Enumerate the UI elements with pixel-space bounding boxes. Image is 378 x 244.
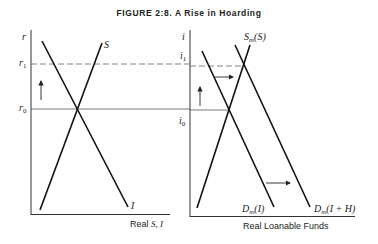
i1-label: i1 (180, 50, 187, 63)
left-x-axis-label: Real S, I (130, 219, 164, 229)
right-x-axis-label: Real Loanable Funds (243, 221, 329, 231)
r0-label: r0 (19, 102, 27, 115)
sm-curve-label: Sm(S) (244, 31, 266, 44)
s-curve (40, 43, 102, 210)
dm-i-curve (202, 51, 274, 207)
left-panel: r 1r1 r0 S I Real S, I (19, 30, 190, 229)
dm-i-h-curve-label: Dm(I + H) (313, 203, 356, 216)
r-axis-label: r (22, 31, 26, 42)
i-curve (42, 41, 128, 207)
right-panel: i i1 i0 Sm(S) Dm(I) Dm(I + H) Real Loana… (179, 30, 356, 231)
dm-i-curve-label: Dm(I) (241, 203, 265, 216)
i0-label: i0 (179, 115, 186, 128)
i-axis-label: i (182, 31, 185, 42)
sm-curve (197, 45, 250, 208)
s-curve-label: S (104, 39, 109, 50)
chart-canvas: r 1r1 r0 S I Real S, I i i1 i0 Sm(S) Dm(… (0, 0, 378, 244)
i-curve-label: I (130, 200, 135, 211)
r1-label: 1r1 (19, 57, 27, 70)
